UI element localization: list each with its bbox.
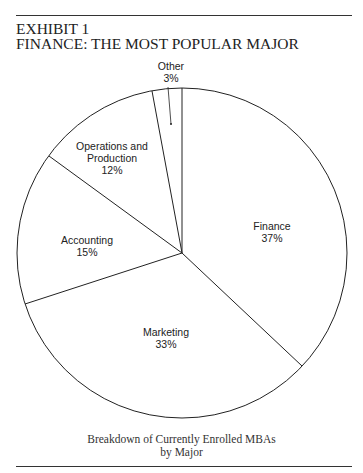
caption-line2: by Major [0,446,363,459]
pct-marketing: 33% [155,338,176,350]
label-marketing: Marketing [143,326,189,338]
label-accounting: Accounting [61,234,113,246]
other-leader-dot [170,123,172,125]
pct-other: 3% [163,72,178,84]
pie-chart: Other 3% Operations and Production 12% A… [0,0,363,473]
pct-accounting: 15% [76,246,97,258]
label-operations-line1: Operations and [76,140,148,152]
label-finance: Finance [253,220,291,232]
pct-operations: 12% [101,164,122,176]
label-operations-line2: Production [87,152,137,164]
bottom-rule [16,466,352,467]
caption-line1: Breakdown of Currently Enrolled MBAs [0,433,363,446]
pct-finance: 37% [261,232,282,244]
label-other: Other [158,60,185,72]
